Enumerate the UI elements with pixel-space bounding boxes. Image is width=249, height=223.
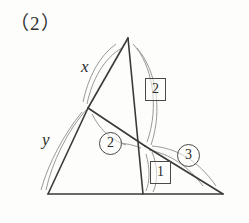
geometry-diagram — [0, 0, 249, 223]
angle-label-circled-2: 2 — [99, 132, 122, 155]
segment-cevian-apex-to-base — [128, 38, 143, 194]
angle-arc-boxed-1 — [146, 154, 149, 191]
worksheet-figure-page: （2） x y 2 3 2 1 — [0, 0, 249, 223]
triangle-line-group — [48, 38, 223, 194]
angle-arc-y — [46, 110, 86, 190]
segment-left-upper-side — [88, 38, 128, 108]
angle-label-x: x — [81, 57, 89, 77]
angle-label-boxed-2: 2 — [145, 78, 166, 101]
angle-label-circled-3: 3 — [177, 144, 200, 167]
angle-arc-group — [41, 44, 216, 192]
segment-left-lower-side — [48, 108, 88, 194]
angle-label-boxed-1: 1 — [150, 161, 171, 184]
angle-label-y: y — [42, 130, 50, 150]
angle-arc-y-outer — [41, 112, 82, 190]
